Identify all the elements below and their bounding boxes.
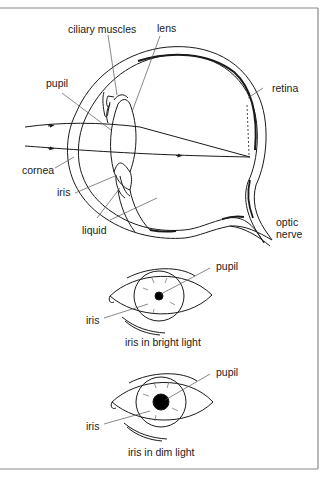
ciliary-muscles-bottom bbox=[114, 172, 132, 198]
label-lens: lens bbox=[157, 22, 176, 34]
label-optic-nerve-1: optic bbox=[276, 216, 298, 228]
label-pupil-dim: pupil bbox=[216, 366, 238, 378]
label-liquid: liquid bbox=[82, 224, 107, 236]
lower-crease bbox=[124, 423, 167, 441]
label-iris-bright: iris bbox=[86, 314, 99, 326]
lens bbox=[111, 100, 136, 173]
lower-crease bbox=[122, 317, 165, 335]
label-optic-nerve-2: nerve bbox=[276, 228, 302, 240]
caption-bright-light: iris in bright light bbox=[125, 336, 201, 348]
label-cornea: cornea bbox=[22, 164, 54, 176]
caption-dim-light: iris in dim light bbox=[128, 446, 195, 458]
eye-bright-light bbox=[109, 269, 212, 335]
sclera-outer bbox=[76, 47, 272, 240]
label-retina: retina bbox=[272, 82, 298, 94]
label-iris-dim: iris bbox=[86, 420, 99, 432]
label-ciliary-muscles: ciliary muscles bbox=[68, 23, 136, 35]
eye-diagram: ciliary muscles lens pupil retina cornea… bbox=[0, 0, 333, 477]
eye-dim-light bbox=[111, 374, 213, 441]
sclera-inner bbox=[86, 55, 264, 243]
light-ray-upper bbox=[25, 123, 250, 157]
label-pupil-bright: pupil bbox=[216, 260, 238, 272]
brow-line bbox=[129, 374, 197, 383]
retina-band bbox=[138, 55, 256, 150]
pupil-dot bbox=[153, 394, 169, 410]
image-projection bbox=[247, 105, 249, 155]
label-pupil: pupil bbox=[46, 77, 68, 89]
label-iris: iris bbox=[57, 186, 70, 198]
